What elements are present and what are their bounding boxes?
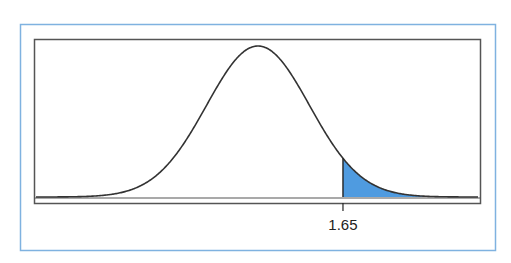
plot-box <box>35 40 481 204</box>
outer-frame <box>21 25 496 251</box>
density-curve <box>36 46 478 197</box>
normal-distribution-chart: 1.65 <box>0 0 511 263</box>
critical-value-label: 1.65 <box>328 216 357 233</box>
